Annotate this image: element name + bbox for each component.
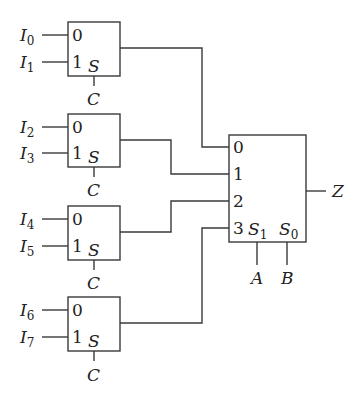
- output-label-z: Z: [331, 181, 345, 201]
- mux4-pin-label-1: 1: [233, 164, 244, 184]
- input-label-i3: I3: [19, 143, 34, 166]
- select-pin-label: S: [88, 331, 100, 351]
- mux4-pin-label-0: 0: [233, 137, 244, 157]
- select-pin-label: S: [88, 240, 100, 260]
- input-label-i4: I4: [19, 209, 35, 232]
- pin-label-1: 1: [72, 52, 83, 72]
- mux4-pin-label-2: 2: [233, 191, 244, 211]
- mux4-pin-label-3: 3: [233, 218, 244, 238]
- select-signal-b: B: [280, 268, 294, 288]
- pin-label-0: 0: [72, 117, 83, 137]
- pin-label-0: 0: [72, 209, 83, 229]
- input-label-i6: I6: [19, 300, 34, 323]
- mux4-block: 0 1 2 3 S1 S0 A B Z: [229, 135, 345, 288]
- select-signal-label: C: [87, 365, 100, 385]
- select-signal-label: C: [87, 180, 100, 200]
- input-label-i0: I0: [19, 25, 34, 48]
- pin-label-1: 1: [72, 143, 83, 163]
- mux-circuit-diagram: I0 I1 0 1 S C I2 I3 0 1 S C I4 I5 0 1 S …: [0, 0, 362, 400]
- select-signal-a: A: [249, 268, 263, 288]
- select-signal-label: C: [87, 273, 100, 293]
- mux2-block-3: I6 I7 0 1 S C: [19, 297, 120, 385]
- interconnect-wires: [120, 48, 229, 323]
- wire-mux1-to-pin1: [120, 140, 229, 174]
- select-pin-label: S: [88, 56, 100, 76]
- pin-label-0: 0: [72, 300, 83, 320]
- wire-mux0-to-pin0: [120, 48, 229, 147]
- mux2-block-0: I0 I1 0 1 S C: [19, 22, 120, 109]
- pin-label-1: 1: [72, 236, 83, 256]
- pin-label-0: 0: [72, 25, 83, 45]
- input-label-i2: I2: [19, 117, 34, 140]
- input-label-i7: I7: [19, 327, 34, 350]
- wire-mux3-to-pin3: [120, 228, 229, 323]
- select-pin-label: S: [88, 147, 100, 167]
- mux2-block-1: I2 I3 0 1 S C: [19, 114, 120, 200]
- input-label-i5: I5: [19, 236, 34, 259]
- pin-label-1: 1: [72, 327, 83, 347]
- input-label-i1: I1: [19, 52, 34, 75]
- mux2-block-2: I4 I5 0 1 S C: [19, 206, 120, 293]
- select-signal-label: C: [87, 89, 100, 109]
